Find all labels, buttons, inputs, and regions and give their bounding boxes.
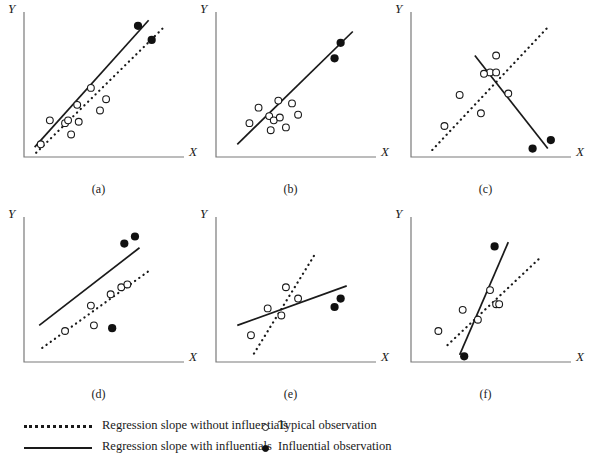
typical-observation-point bbox=[87, 85, 94, 92]
typical-observation-point bbox=[278, 312, 285, 319]
influential-observation-point bbox=[337, 39, 345, 47]
panel-b: YX(b) bbox=[192, 0, 389, 205]
influential-observation-point bbox=[337, 294, 345, 302]
panel-plot-c bbox=[387, 0, 584, 205]
panel-f: YX(f) bbox=[387, 205, 584, 410]
typical-observation-point bbox=[46, 117, 53, 124]
panel-plot-e bbox=[192, 205, 389, 410]
typical-observation-point bbox=[295, 295, 302, 302]
influential-observation-point bbox=[547, 136, 555, 144]
typical-observation-point bbox=[37, 141, 44, 148]
regression-line-with-influentials bbox=[460, 242, 509, 355]
typical-observation-point bbox=[276, 114, 283, 121]
legend-label-typical-observation: Typical observation bbox=[278, 418, 377, 433]
regression-line-without-influentials bbox=[254, 252, 316, 354]
dotted-line-icon bbox=[24, 425, 92, 432]
influential-observation-point bbox=[131, 232, 139, 240]
typical-observation-point bbox=[255, 104, 262, 111]
typical-observation-point bbox=[283, 284, 290, 291]
typical-observation-point bbox=[435, 328, 442, 335]
typical-observation-point bbox=[478, 110, 485, 117]
x-axis-label: X bbox=[576, 350, 584, 363]
filled-circle-icon bbox=[262, 445, 269, 452]
regression-line-without-influentials bbox=[432, 27, 548, 150]
panel-d: YX(d) bbox=[0, 205, 197, 410]
axis-lines bbox=[24, 217, 184, 362]
typical-observation-point bbox=[103, 96, 110, 103]
typical-observation-point bbox=[289, 100, 296, 107]
typical-observation-point bbox=[505, 90, 512, 97]
solid-line-icon bbox=[24, 447, 92, 453]
typical-observation-point bbox=[267, 127, 274, 134]
panel-c: YX(c) bbox=[387, 0, 584, 205]
typical-observation-point bbox=[275, 97, 282, 104]
influential-observation-point bbox=[460, 352, 468, 360]
typical-observation-point bbox=[68, 131, 75, 138]
y-axis-label: Y bbox=[200, 2, 207, 15]
typical-observation-point bbox=[91, 322, 98, 329]
typical-observation-point bbox=[493, 52, 500, 59]
axis-lines bbox=[216, 217, 376, 362]
figure-root: YX(a)YX(b)YX(c)YX(d)YX(e)YX(f) bbox=[0, 0, 593, 465]
panel-caption-a: (a) bbox=[0, 182, 197, 197]
regression-line-with-influentials bbox=[35, 20, 149, 147]
typical-observation-point bbox=[124, 281, 131, 288]
typical-observation-point bbox=[107, 291, 114, 298]
typical-observation-point bbox=[264, 305, 271, 312]
regression-line-with-influentials bbox=[475, 55, 548, 148]
influential-observation-point bbox=[529, 144, 537, 152]
influential-observation-point bbox=[148, 36, 156, 44]
typical-observation-point bbox=[87, 302, 94, 309]
typical-observation-point bbox=[493, 69, 500, 76]
typical-observation-point bbox=[456, 92, 463, 99]
axis-lines bbox=[411, 12, 571, 157]
axis-lines bbox=[216, 12, 376, 157]
panel-caption-c: (c) bbox=[387, 182, 584, 197]
panel-a: YX(a) bbox=[0, 0, 197, 205]
influential-observation-point bbox=[134, 22, 142, 30]
y-axis-label: Y bbox=[8, 207, 15, 220]
panel-plot-d bbox=[0, 205, 197, 410]
legend-label-without-influentials: Regression slope without influentials bbox=[102, 418, 288, 433]
influential-observation-point bbox=[330, 303, 338, 311]
typical-observation-point bbox=[75, 118, 82, 125]
regression-line-without-influentials bbox=[36, 27, 164, 152]
typical-observation-point bbox=[474, 316, 481, 323]
typical-observation-point bbox=[295, 111, 302, 118]
panel-caption-e: (e) bbox=[192, 387, 389, 402]
y-axis-label: Y bbox=[200, 207, 207, 220]
typical-observation-point bbox=[97, 107, 104, 114]
panel-e: YX(e) bbox=[192, 205, 389, 410]
x-axis-label: X bbox=[576, 145, 584, 158]
panel-caption-b: (b) bbox=[192, 182, 389, 197]
typical-observation-point bbox=[459, 306, 466, 313]
panel-plot-f bbox=[387, 205, 584, 410]
y-axis-label: Y bbox=[395, 207, 402, 220]
typical-observation-point bbox=[487, 287, 494, 294]
typical-observation-point bbox=[496, 301, 503, 308]
typical-observation-point bbox=[74, 101, 81, 108]
legend-label-influential-observation: Influential observation bbox=[278, 439, 392, 454]
panel-caption-d: (d) bbox=[0, 387, 197, 402]
figure-legend: Regression slope without influentials Re… bbox=[0, 415, 593, 465]
regression-line-with-influentials bbox=[237, 32, 353, 145]
typical-observation-point bbox=[62, 328, 69, 335]
typical-observation-point bbox=[441, 123, 448, 130]
influential-observation-point bbox=[491, 242, 499, 250]
y-axis-label: Y bbox=[395, 2, 402, 15]
influential-observation-point bbox=[108, 324, 116, 332]
y-axis-label: Y bbox=[8, 2, 15, 15]
typical-observation-point bbox=[246, 120, 253, 127]
influential-observation-point bbox=[120, 239, 128, 247]
influential-observation-point bbox=[330, 54, 338, 62]
typical-observation-point bbox=[248, 332, 255, 339]
axis-lines bbox=[24, 12, 184, 157]
typical-observation-point bbox=[481, 70, 488, 77]
panel-caption-f: (f) bbox=[387, 387, 584, 402]
panel-plot-a bbox=[0, 0, 197, 205]
legend-label-with-influentials: Regression slope with influentials bbox=[102, 439, 272, 454]
typical-observation-point bbox=[65, 117, 72, 124]
panel-plot-b bbox=[192, 0, 389, 205]
typical-observation-point bbox=[283, 124, 290, 131]
open-circle-icon bbox=[262, 424, 269, 431]
